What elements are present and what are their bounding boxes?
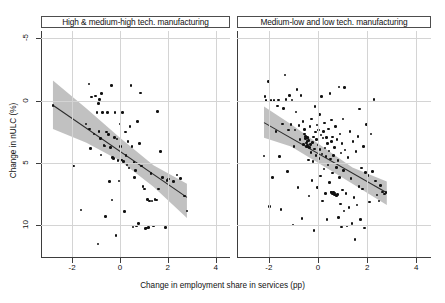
gridline-vertical bbox=[168, 31, 169, 257]
scatter-point bbox=[310, 118, 313, 121]
scatter-point bbox=[306, 140, 309, 143]
scatter-point bbox=[321, 200, 324, 203]
scatter-point bbox=[307, 159, 310, 162]
gridline-horizontal bbox=[237, 38, 431, 39]
scatter-point bbox=[339, 203, 342, 206]
panel-title-right: Medium-low and low tech. manufacturing bbox=[237, 16, 431, 28]
scatter-point bbox=[331, 136, 334, 139]
y-tick-label: 10 bbox=[21, 217, 30, 231]
scatter-point bbox=[343, 86, 346, 89]
scatter-point bbox=[282, 107, 285, 110]
plot-area-left bbox=[41, 31, 230, 257]
scatter-point bbox=[342, 169, 345, 172]
scatter-point bbox=[110, 84, 113, 87]
x-tick-label: 4 bbox=[204, 263, 228, 272]
scatter-point bbox=[138, 142, 141, 145]
scatter-point bbox=[131, 145, 134, 148]
scatter-point bbox=[308, 146, 311, 149]
scatter-point bbox=[293, 145, 296, 148]
regression-overlay-left bbox=[41, 31, 230, 257]
scatter-point bbox=[104, 215, 107, 218]
scatter-point bbox=[264, 95, 267, 98]
scatter-point bbox=[130, 84, 133, 87]
scatter-point bbox=[172, 180, 175, 183]
scatter-point bbox=[281, 123, 284, 126]
gridline-horizontal bbox=[237, 101, 431, 102]
scatter-point bbox=[278, 155, 281, 158]
y-axis-title: Change in nULC (%) bbox=[9, 81, 18, 201]
scatter-point bbox=[109, 146, 112, 149]
scatter-point bbox=[385, 191, 388, 194]
scatter-point bbox=[325, 136, 328, 139]
scatter-point bbox=[136, 120, 139, 123]
gridline-vertical bbox=[72, 31, 73, 257]
scatter-point bbox=[123, 210, 126, 213]
scatter-point bbox=[288, 94, 291, 97]
x-axis-line-right bbox=[237, 257, 431, 258]
scatter-point bbox=[324, 192, 327, 195]
gridline-horizontal bbox=[237, 225, 431, 226]
scatter-point bbox=[99, 137, 102, 140]
scatter-point bbox=[334, 125, 337, 128]
y-tick-mark bbox=[36, 101, 41, 102]
gridline-vertical bbox=[216, 31, 217, 257]
scatter-point bbox=[147, 226, 150, 229]
x-tick-label: -2 bbox=[257, 263, 281, 272]
scatter-point bbox=[90, 96, 93, 99]
scatter-point bbox=[302, 120, 305, 123]
scatter-point bbox=[161, 176, 164, 179]
scatter-point bbox=[330, 140, 333, 143]
scatter-point bbox=[326, 218, 329, 221]
gridline-horizontal bbox=[41, 163, 230, 164]
scatter-point bbox=[303, 128, 306, 131]
scatter-point bbox=[311, 141, 314, 144]
regression-overlay-right bbox=[237, 31, 431, 257]
scatter-point bbox=[106, 111, 109, 114]
gridline-horizontal bbox=[237, 163, 431, 164]
scatter-point bbox=[338, 176, 341, 179]
scatter-point bbox=[331, 172, 334, 175]
scatter-point bbox=[124, 131, 127, 134]
scatter-point bbox=[362, 145, 365, 148]
scatter-point bbox=[97, 102, 100, 105]
scatter-point bbox=[164, 226, 167, 229]
panel-title-left: High & medium-high tech. manufacturing bbox=[41, 16, 230, 28]
gridline-horizontal bbox=[41, 101, 230, 102]
x-tick-label: 2 bbox=[355, 263, 379, 272]
scatter-point bbox=[112, 157, 115, 160]
scatter-point bbox=[333, 146, 336, 149]
scatter-point bbox=[349, 130, 352, 133]
scatter-point bbox=[350, 177, 353, 180]
scatter-point bbox=[52, 104, 55, 107]
gridline-vertical bbox=[269, 31, 270, 257]
y-tick-mark bbox=[36, 225, 41, 226]
gridline-horizontal bbox=[41, 38, 230, 39]
x-tick-label: 0 bbox=[306, 263, 330, 272]
scatter-point bbox=[107, 133, 110, 136]
gridline-vertical bbox=[367, 31, 368, 257]
scatter-point bbox=[159, 150, 162, 153]
x-tick-label: 0 bbox=[108, 263, 132, 272]
scatter-point bbox=[357, 135, 360, 138]
scatter-plot-figure: High & medium-high tech. manufacturing M… bbox=[0, 0, 445, 303]
scatter-point bbox=[296, 88, 299, 91]
scatter-point bbox=[353, 196, 356, 199]
scatter-point bbox=[326, 142, 329, 145]
scatter-point bbox=[320, 95, 323, 98]
scatter-point bbox=[336, 193, 339, 196]
x-tick-label: 4 bbox=[404, 263, 428, 272]
scatter-point bbox=[337, 216, 340, 219]
scatter-point bbox=[328, 181, 331, 184]
scatter-point bbox=[379, 184, 382, 187]
scatter-point bbox=[374, 180, 377, 183]
y-tick-label: -5 bbox=[21, 31, 30, 45]
scatter-point bbox=[301, 217, 304, 220]
gridline-horizontal bbox=[41, 225, 230, 226]
x-axis-title: Change in employment share in services (… bbox=[0, 281, 445, 290]
scatter-point bbox=[100, 92, 103, 95]
x-tick-label: -2 bbox=[60, 263, 84, 272]
scatter-point bbox=[121, 111, 124, 114]
gridline-vertical bbox=[416, 31, 417, 257]
scatter-point bbox=[94, 95, 97, 98]
y-tick-label: 0 bbox=[21, 93, 30, 107]
